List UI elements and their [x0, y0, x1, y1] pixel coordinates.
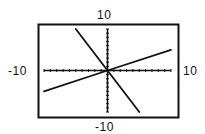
graph-window: [0, 0, 205, 134]
